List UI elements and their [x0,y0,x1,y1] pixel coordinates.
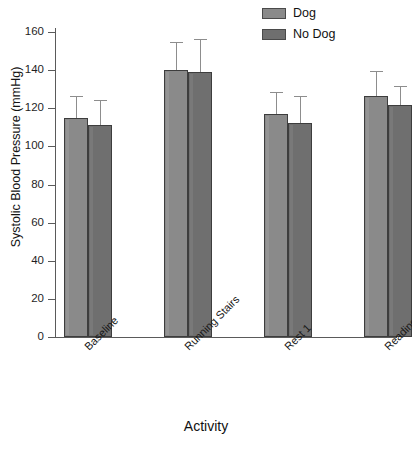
error-bar [300,97,301,123]
error-bar-cap [70,96,83,97]
bar-dog [164,70,188,337]
error-bar [200,40,201,72]
y-tick-mark [48,146,55,147]
error-bar [276,93,277,114]
error-bar [376,72,377,96]
y-tick-label: 20 [0,293,44,305]
error-bar-cap [94,100,107,101]
error-bar [176,43,177,70]
y-tick-mark [48,32,55,33]
error-bar [76,97,77,118]
x-axis-title: Activity [0,418,412,434]
x-axis-line [55,337,397,338]
y-tick-mark [48,261,55,262]
bar-dog [264,114,288,337]
y-tick-label: 160 [0,26,44,38]
legend-label-dog: Dog [293,6,316,21]
bar-dog [364,96,388,337]
legend-swatch-dog [262,8,286,19]
bar-group [64,32,112,337]
bar-no-dog [88,125,112,337]
error-bar-cap [194,39,207,40]
error-bar-cap [394,86,407,87]
bar-no-dog [388,105,412,337]
bar-chart-figure: Dog No Dog 020406080100120140160 Systoli… [0,0,412,460]
bar-group [264,32,312,337]
y-tick-mark [48,185,55,186]
y-tick-label: 0 [0,331,44,343]
bar-no-dog [288,123,312,337]
error-bar [100,101,101,126]
y-tick-mark [48,108,55,109]
y-tick-mark [48,70,55,71]
caption-sliver [0,453,412,460]
bar-group [164,32,212,337]
error-bar-cap [270,92,283,93]
plot-area [55,32,395,337]
bar-no-dog [188,72,212,337]
bar-group [364,32,412,337]
bar-dog [64,118,88,337]
y-tick-mark [48,223,55,224]
error-bar-cap [170,42,183,43]
y-tick-mark [48,337,55,338]
error-bar-cap [370,71,383,72]
error-bar [400,87,401,105]
y-tick-mark [48,299,55,300]
error-bar-cap [294,96,307,97]
y-axis-title: Systolic Blood Pressure (mmHg) [9,57,23,257]
